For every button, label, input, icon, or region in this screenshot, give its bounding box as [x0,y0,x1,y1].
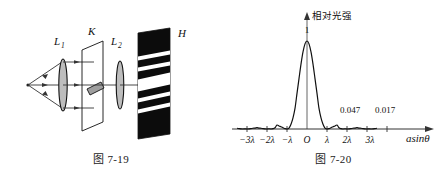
y-axis-arrow-icon [304,12,310,20]
diverging-ray-arrowheads [42,74,48,96]
origin-label: O [304,135,311,145]
diffraction-screen-icon [136,28,172,139]
parallel-ray-arrowheads [74,60,80,110]
screen-label: H [177,27,187,39]
x-tick-label: −2λ [259,135,274,145]
x-tick-label: 3λ [365,135,375,145]
light-ray-arrow-icon [74,106,80,110]
figure-7-19: L 1 K L 2 [0,0,222,178]
lens2-label: L [110,35,117,47]
light-ray-lower [28,85,62,108]
x-tick-label: −3λ [239,135,254,145]
figure-7-20: 相对光强 asinθ −3λ −2λ −λ O λ 2λ 3λ [222,0,445,178]
x-tick-label: 2λ [343,135,352,145]
side-peak-2-label: 0.017 [375,105,396,115]
lens1-label: L [53,35,60,47]
slit-aperture-icon [87,82,104,95]
x-tick-label: −λ [282,135,293,145]
side-peak-1-label: 0.047 [340,105,361,115]
slit-label: K [87,25,96,37]
light-ray-arrow-icon [42,83,48,87]
lens2-sublabel: 2 [118,41,122,50]
figure-7-19-caption: 图 7-19 [0,150,222,166]
light-ray-upper [28,62,62,85]
intensity-chart: 相对光强 asinθ −3λ −2λ −λ O λ 2λ 3λ [222,0,445,150]
figure-pair-container: L 1 K L 2 [0,0,445,178]
optical-setup-diagram: L 1 K L 2 [0,0,222,150]
light-ray-arrow-icon [74,83,80,87]
figure-7-20-caption: 图 7-20 [222,150,445,166]
x-tick-label: λ [324,135,329,145]
light-ray-arrow-icon [74,60,80,64]
peak-value-label: 1 [305,25,310,35]
y-axis-label: 相对光强 [312,10,352,21]
x-axis-label: asinθ [406,132,430,144]
lens1-sublabel: 1 [61,41,65,50]
